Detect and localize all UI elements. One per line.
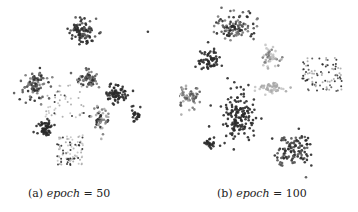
- caption-epoch-50: (a) epoch = 50: [28, 187, 110, 200]
- caption-epoch-100: (b) epoch = 100: [217, 187, 307, 200]
- scatter-points-epoch-50: [0, 0, 179, 180]
- caption-label: (b): [217, 187, 233, 200]
- caption-value: 100: [286, 187, 307, 200]
- tsne-plot-epoch-50: [0, 0, 179, 180]
- caption-equals: =: [80, 187, 96, 200]
- caption-value: 50: [96, 187, 110, 200]
- tsne-plot-epoch-100: [179, 0, 358, 180]
- caption-variable: epoch: [236, 187, 269, 200]
- caption-variable: epoch: [47, 187, 80, 200]
- caption-label: (a): [28, 187, 43, 200]
- scatter-points-epoch-100: [179, 0, 358, 180]
- caption-equals: =: [270, 187, 286, 200]
